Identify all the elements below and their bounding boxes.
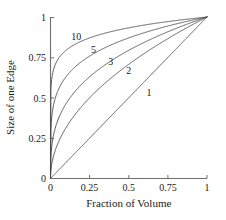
x-axis-title: Fraction of Volume bbox=[86, 197, 171, 209]
y-tick-label: 0 bbox=[41, 173, 46, 184]
curve-label: 10 bbox=[71, 31, 81, 42]
chart-figure: 123510 1 0.75 0.5 0.25 0 0 0.25 0.5 0.75… bbox=[0, 0, 226, 220]
curve-label-group: 123510 bbox=[71, 31, 151, 98]
curve-label: 5 bbox=[91, 44, 96, 55]
y-tick-label: 1 bbox=[41, 12, 46, 23]
y-tick-label: 0.25 bbox=[29, 133, 47, 144]
y-tick-labels: 1 0.75 0.5 0.25 0 bbox=[29, 12, 47, 184]
y-axis-title: Size of one Edge bbox=[4, 60, 16, 135]
curve-label: 3 bbox=[108, 56, 113, 67]
x-tick-label: 0.25 bbox=[81, 182, 99, 193]
chart-canvas: 123510 1 0.75 0.5 0.25 0 0 0.25 0.5 0.75… bbox=[0, 0, 226, 220]
curve-label: 1 bbox=[147, 87, 152, 98]
x-tick-label: 1 bbox=[205, 182, 210, 193]
y-tick-label: 0.75 bbox=[29, 52, 47, 63]
x-tick-label: 0 bbox=[48, 182, 53, 193]
y-tick-label: 0.5 bbox=[34, 93, 47, 104]
x-tick-label: 0.5 bbox=[123, 182, 136, 193]
x-tick-label: 0.75 bbox=[159, 182, 177, 193]
x-tick-labels: 0 0.25 0.5 0.75 1 bbox=[48, 182, 210, 193]
curve-label: 2 bbox=[126, 65, 131, 76]
